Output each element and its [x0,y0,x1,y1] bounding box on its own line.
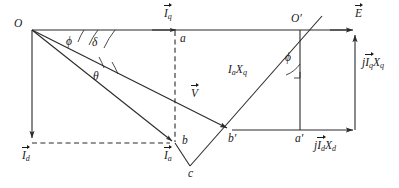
angle-arcs-at-O [78,30,118,74]
phi-right-angle-arc [286,64,300,78]
vector-label-jIqXq: jIqXq [362,57,384,70]
vector-label-V: V [191,88,198,100]
point-label-a-prime: a′ [295,133,303,145]
point-label-b: b [182,135,188,147]
vector-label-Iq-subscript: q [168,12,172,21]
vector-label-Ia-subscript: a [168,154,172,163]
vector-label-jIdXd-d1: d [321,144,325,153]
vector-label-jIqXq-q2: q [380,61,384,70]
point-label-b-prime: b′ [228,133,236,145]
point-label-O-prime: O′ [291,13,302,25]
vector-label-E-symbol: E [355,7,362,19]
phasor-diagram-figure: O O′ a b c b′ a′ ϕ δ θ ϕ Iq E V Id Ia Ia… [0,0,399,188]
vector-label-jIdXd: jIdXd [314,140,336,153]
vector-label-Ia: Ia [164,150,172,163]
vector-label-E: E [355,8,362,20]
vector-label-jIqXq-q1: q [369,61,373,70]
vector-label-V-symbol: V [191,87,198,99]
V-vector-line [32,30,227,128]
vector-label-jIdXd-d2: d [332,144,336,153]
vector-label-IaXq-X: X [236,63,243,75]
angle-label-phi-left: ϕ [66,36,72,48]
point-label-c: c [188,168,193,180]
vector-label-IaXq-q: q [243,68,247,77]
vector-label-IaXq: IaXq [228,64,247,77]
angle-label-delta: δ [92,37,97,49]
angle-label-theta: θ [93,71,99,83]
vector-label-Iq: Iq [164,8,172,21]
vector-label-Id: Id [22,150,30,163]
phasor-diagram-canvas [0,0,399,188]
point-label-a: a [180,33,186,45]
angle-label-phi-right: ϕ [285,52,291,64]
vector-label-Id-subscript: d [26,154,30,163]
point-label-O: O [14,18,22,30]
